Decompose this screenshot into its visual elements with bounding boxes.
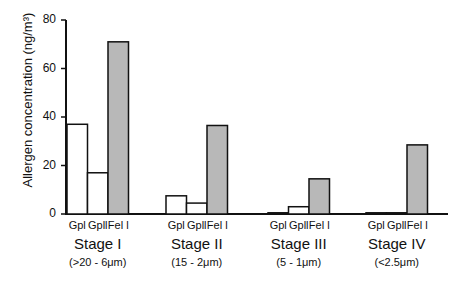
y-tick-label: 40 bbox=[32, 109, 56, 123]
stage-label: Stage I bbox=[53, 235, 143, 252]
bar-label: Fel l bbox=[303, 219, 336, 231]
bar-fel-l bbox=[108, 42, 129, 214]
bar-fel-l bbox=[407, 145, 428, 214]
y-tick-label: 80 bbox=[32, 12, 56, 26]
bar-label: Fel l bbox=[401, 219, 434, 231]
y-tick-label: 0 bbox=[32, 206, 56, 220]
bar-label: Fel l bbox=[201, 219, 234, 231]
bar-gpl bbox=[166, 196, 187, 214]
bar-gpll bbox=[88, 173, 109, 214]
bar-gpl bbox=[268, 213, 289, 214]
bar-fel-l bbox=[309, 179, 330, 214]
particle-size-range: (5 - 1μm) bbox=[254, 256, 344, 268]
bar-gpll bbox=[187, 203, 208, 214]
bar-gpll bbox=[387, 213, 408, 214]
particle-size-range: (<2.5μm) bbox=[352, 256, 442, 268]
bar-label: Fel l bbox=[102, 219, 135, 231]
particle-size-range: (15 - 2μm) bbox=[152, 256, 242, 268]
stage-label: Stage III bbox=[254, 235, 344, 252]
bar-gpl bbox=[366, 213, 387, 214]
stage-label: Stage IV bbox=[352, 235, 442, 252]
particle-size-range: (>20 - 6μm) bbox=[53, 256, 143, 268]
bar-fel-l bbox=[207, 125, 228, 214]
y-tick-label: 20 bbox=[32, 158, 56, 172]
bar-gpll bbox=[289, 207, 310, 214]
y-tick-label: 60 bbox=[32, 61, 56, 75]
stage-label: Stage II bbox=[152, 235, 242, 252]
bar-gpl bbox=[67, 124, 88, 214]
